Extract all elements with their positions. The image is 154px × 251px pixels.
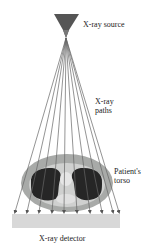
xray-source-icon (54, 14, 79, 38)
left-lung (31, 168, 61, 201)
patient-torso-label-line1: Patient's (114, 167, 141, 176)
patient-torso-label: Patient's torso (114, 167, 141, 185)
spine (60, 172, 72, 186)
xray-detector (12, 214, 120, 228)
right-lung (72, 168, 102, 200)
diagram-graphic (0, 0, 154, 251)
xray-diagram: X-ray source X-ray paths Patient's torso… (0, 0, 154, 251)
patient-torso-label-line2: torso (114, 176, 141, 185)
xray-detector-label: X-ray detector (39, 234, 85, 243)
patient-torso (21, 154, 113, 212)
xray-paths-label-line2: paths (95, 106, 114, 115)
xray-paths-label-line1: X-ray (95, 97, 114, 106)
xray-paths-label: X-ray paths (95, 97, 114, 115)
xray-source-label: X-ray source (83, 20, 125, 29)
